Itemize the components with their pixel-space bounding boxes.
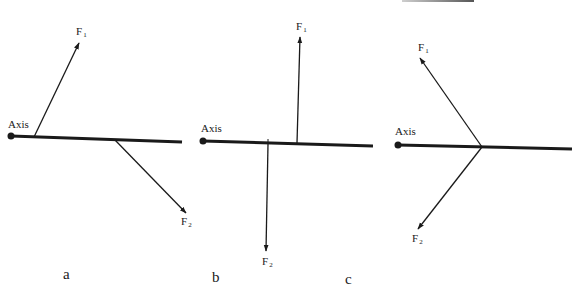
force2-label-a: F2 <box>181 216 192 229</box>
axis-label-b: Axis <box>201 123 222 134</box>
force-diagram: Axis F1 F2 a Axis F1 F2 b Axis F1 F2 c <box>0 0 577 301</box>
panel-a <box>8 43 187 213</box>
axis-pivot-a <box>8 133 15 140</box>
panel-label-a: a <box>63 267 70 282</box>
force1-sub-a: 1 <box>83 31 87 39</box>
panel-b <box>200 37 374 251</box>
force1-label-c: F1 <box>418 42 429 55</box>
force1-sub-c: 1 <box>425 47 429 55</box>
force1-label-b: F1 <box>296 21 307 34</box>
force1-arrow-b <box>297 37 300 143</box>
lever-a <box>11 136 182 142</box>
force2-arrow-c <box>418 147 482 229</box>
axis-pivot-c <box>395 142 402 149</box>
panel-label-c: c <box>345 272 352 287</box>
panel-c <box>395 58 573 229</box>
force2-sub-b: 2 <box>269 261 273 269</box>
force2-arrow-b <box>266 144 268 251</box>
lever-c <box>398 145 572 149</box>
force2-sub-c: 2 <box>419 238 423 246</box>
force2-name-b: F <box>262 255 268 267</box>
force2-label-c: F2 <box>412 233 423 246</box>
force2-label-b: F2 <box>262 256 273 269</box>
force1-name-c: F <box>418 41 424 53</box>
axis-label-c: Axis <box>395 126 416 137</box>
force1-sub-b: 1 <box>303 26 307 34</box>
axis-pivot-b <box>200 138 207 145</box>
force1-name-a: F <box>76 25 82 37</box>
force2-arrow-a <box>115 140 186 213</box>
force1-name-b: F <box>296 20 302 32</box>
lever-b <box>203 141 373 146</box>
force1-arrow-a <box>34 43 79 137</box>
diagram-graphics <box>0 0 577 301</box>
panel-label-b: b <box>212 270 220 285</box>
force1-label-a: F1 <box>76 26 87 39</box>
force2-sub-a: 2 <box>188 221 192 229</box>
force2-name-c: F <box>412 232 418 244</box>
axis-label-a: Axis <box>8 119 29 130</box>
force1-arrow-c <box>420 58 482 147</box>
force2-name-a: F <box>181 215 187 227</box>
